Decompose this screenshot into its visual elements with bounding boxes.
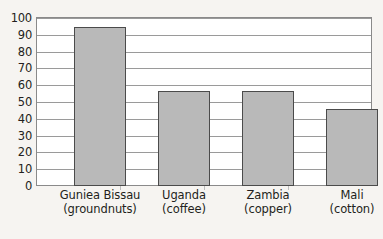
x-axis-label-mali: Mali (cotton) (294, 188, 383, 216)
x-axis-label-line2: (cotton) (294, 202, 383, 216)
y-tick-label-100: 100 (0, 11, 32, 25)
bar-chart: 100 90 80 70 60 50 40 30 20 10 0 Guniea … (0, 0, 383, 239)
y-tick-label-60: 60 (0, 78, 32, 92)
y-tick-label-0: 0 (0, 179, 32, 193)
bar-mali[interactable] (326, 109, 378, 186)
y-tick-label-80: 80 (0, 45, 32, 59)
y-tick-label-50: 50 (0, 95, 32, 109)
x-axis-labels: Guniea Bissau (groundnuts) Uganda (coffe… (36, 188, 372, 236)
bar-guniea-bissau[interactable] (74, 27, 126, 186)
y-tick-label-90: 90 (0, 28, 32, 42)
y-tick-label-40: 40 (0, 112, 32, 126)
bars-layer (36, 17, 372, 186)
y-tick-label-20: 20 (0, 145, 32, 159)
x-axis-label-line1: Mali (294, 188, 383, 202)
y-tick-label-70: 70 (0, 61, 32, 75)
y-tick-label-30: 30 (0, 129, 32, 143)
bar-zambia[interactable] (242, 91, 294, 186)
bar-uganda[interactable] (158, 91, 210, 186)
y-tick-label-10: 10 (0, 162, 32, 176)
